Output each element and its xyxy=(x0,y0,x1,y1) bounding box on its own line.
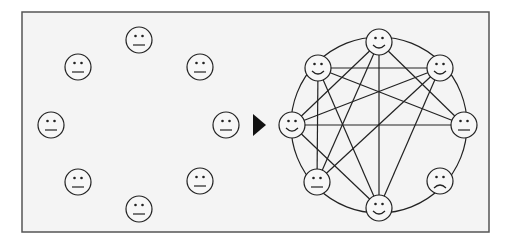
face-neutral-icon xyxy=(65,54,91,80)
face-outline xyxy=(213,112,239,138)
face-neutral-icon xyxy=(126,196,152,222)
face-outline xyxy=(187,54,213,80)
eye-icon xyxy=(466,120,469,123)
eye-icon xyxy=(134,35,137,38)
face-neutral-icon xyxy=(213,112,239,138)
face-outline xyxy=(427,168,453,194)
face-neutral-icon xyxy=(65,169,91,195)
eye-icon xyxy=(442,176,445,179)
eye-icon xyxy=(134,204,137,207)
eye-icon xyxy=(141,204,144,207)
face-smile-icon xyxy=(427,55,453,81)
eye-icon xyxy=(320,63,323,66)
eye-icon xyxy=(374,203,377,206)
face-outline xyxy=(451,112,477,138)
eye-icon xyxy=(442,63,445,66)
eye-icon xyxy=(381,37,384,40)
eye-icon xyxy=(46,120,49,123)
eye-icon xyxy=(319,177,322,180)
face-outline xyxy=(366,195,392,221)
face-outline xyxy=(427,55,453,81)
eye-icon xyxy=(287,120,290,123)
eye-icon xyxy=(80,62,83,65)
eye-icon xyxy=(73,177,76,180)
eye-icon xyxy=(381,203,384,206)
face-smile-icon xyxy=(366,29,392,55)
face-neutral-icon xyxy=(304,169,330,195)
face-outline xyxy=(38,112,64,138)
eye-icon xyxy=(312,177,315,180)
face-outline xyxy=(305,55,331,81)
eye-icon xyxy=(435,63,438,66)
face-neutral-icon xyxy=(187,54,213,80)
face-smile-icon xyxy=(305,55,331,81)
face-neutral-icon xyxy=(451,112,477,138)
face-outline xyxy=(366,29,392,55)
eye-icon xyxy=(313,63,316,66)
face-outline xyxy=(65,54,91,80)
eye-icon xyxy=(73,62,76,65)
eye-icon xyxy=(435,176,438,179)
eye-icon xyxy=(228,120,231,123)
eye-icon xyxy=(202,176,205,179)
eye-icon xyxy=(53,120,56,123)
face-outline xyxy=(304,169,330,195)
eye-icon xyxy=(294,120,297,123)
eye-icon xyxy=(195,176,198,179)
face-outline xyxy=(187,168,213,194)
network-diagram xyxy=(0,0,511,248)
eye-icon xyxy=(459,120,462,123)
face-smile-icon xyxy=(366,195,392,221)
eye-icon xyxy=(141,35,144,38)
face-neutral-icon xyxy=(187,168,213,194)
face-neutral-icon xyxy=(126,27,152,53)
eye-icon xyxy=(374,37,377,40)
face-smile-icon xyxy=(279,112,305,138)
face-outline xyxy=(126,27,152,53)
eye-icon xyxy=(202,62,205,65)
eye-icon xyxy=(80,177,83,180)
face-outline xyxy=(65,169,91,195)
face-outline xyxy=(279,112,305,138)
face-outline xyxy=(126,196,152,222)
eye-icon xyxy=(221,120,224,123)
face-neutral-icon xyxy=(38,112,64,138)
face-frown-icon xyxy=(427,168,453,194)
eye-icon xyxy=(195,62,198,65)
